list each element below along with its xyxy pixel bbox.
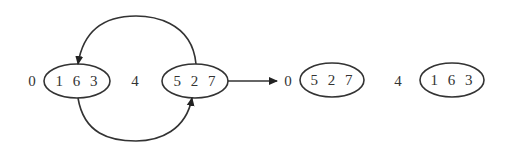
right-state: 0 5 2 7 4 1 6 3 — [284, 63, 484, 97]
left-index-0-label: 0 — [28, 73, 36, 89]
left-state: 0 1 6 3 4 5 2 7 — [28, 64, 228, 98]
right-index-4-label: 4 — [394, 73, 402, 89]
right-node-b-label: 1 6 3 — [431, 72, 476, 88]
bottom-swap-arc-arrow — [78, 98, 192, 141]
right-node-a-label: 5 2 7 — [311, 72, 356, 88]
right-index-0-label: 0 — [284, 73, 292, 89]
swap-diagram: 0 1 6 3 4 5 2 7 0 5 2 7 4 1 6 3 — [0, 0, 508, 144]
left-index-4-label: 4 — [131, 73, 139, 89]
left-node-a-label: 1 6 3 — [56, 73, 101, 89]
top-swap-arc-arrow — [78, 16, 196, 64]
left-node-b-label: 5 2 7 — [174, 73, 219, 89]
